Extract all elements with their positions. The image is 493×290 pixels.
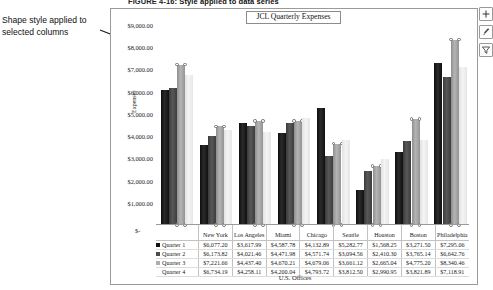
- bar-quarter-1[interactable]: [161, 90, 169, 225]
- bar-quarter-3[interactable]: [333, 144, 341, 225]
- bar-quarter-2[interactable]: [325, 156, 333, 225]
- bar-quarter-1[interactable]: [434, 63, 442, 225]
- selection-handle[interactable]: [183, 63, 187, 67]
- y-axis-tick-label: $3,000.00: [127, 155, 153, 162]
- selection-handle[interactable]: [418, 117, 422, 121]
- table-cell: $6,642.76: [435, 250, 469, 259]
- bar-quarter-3[interactable]: [255, 121, 263, 225]
- figure-caption: FIGURE 4-16: Style applied to data serie…: [128, 0, 358, 7]
- table-cell: $5,282.77: [334, 241, 368, 250]
- chart-filters-button[interactable]: [479, 43, 493, 57]
- table-row-header: Quarter 2: [156, 250, 199, 259]
- bar-quarter-1[interactable]: [200, 145, 208, 225]
- table-column-header: Seattle: [334, 225, 368, 241]
- table-cell: $6,077.20: [199, 241, 233, 250]
- table-cell: $7,295.06: [435, 241, 469, 250]
- selection-handle[interactable]: [222, 125, 226, 129]
- bar-quarter-2[interactable]: [247, 126, 255, 225]
- chart-elements-button[interactable]: [479, 7, 493, 21]
- selection-handle[interactable]: [261, 119, 265, 123]
- table-column-header: Boston: [401, 225, 435, 241]
- selection-handle[interactable]: [457, 38, 461, 42]
- bar-quarter-4[interactable]: [459, 67, 467, 225]
- bar-group: [313, 25, 352, 225]
- table-header-row: New YorkLos AngelesMiamiChicagoSeattleHo…: [156, 225, 469, 241]
- table-row: Quarter 1$6,077.20$3,617.99$4,587.78$4,1…: [156, 241, 469, 250]
- table-cell: $2,665.04: [368, 259, 402, 268]
- legend-swatch: [156, 261, 160, 265]
- bar-quarter-2[interactable]: [208, 136, 216, 225]
- table-cell: $4,587.78: [266, 241, 300, 250]
- bar-quarter-2[interactable]: [169, 88, 177, 225]
- table-cell: $4,775.20: [401, 259, 435, 268]
- bar-quarter-4[interactable]: [263, 132, 271, 225]
- bar-quarter-2[interactable]: [403, 141, 411, 225]
- table-cell: $4,471.98: [266, 250, 300, 259]
- table-cell: $4,571.74: [300, 250, 334, 259]
- y-axis-tick-label: $8,000.00: [127, 44, 153, 51]
- chart-data-table: New YorkLos AngelesMiamiChicagoSeattleHo…: [156, 225, 469, 273]
- table-column-header: Philadelphia: [435, 225, 469, 241]
- bar-quarter-3[interactable]: [177, 65, 185, 225]
- bar-quarter-3[interactable]: [451, 40, 459, 225]
- bar-group: [352, 25, 391, 225]
- bar-quarter-3[interactable]: [373, 166, 381, 225]
- bar-quarter-1[interactable]: [278, 133, 286, 225]
- y-axis-tick-label: $7,000.00: [127, 66, 153, 73]
- table-cell: $4,679.06: [300, 259, 334, 268]
- bar-quarter-3[interactable]: [412, 119, 420, 225]
- y-axis-tick-label: $9,000.00: [127, 22, 153, 29]
- chart-styles-button[interactable]: [479, 25, 493, 39]
- table-cell: $2,410.30: [368, 250, 402, 259]
- bar-quarter-3[interactable]: [216, 126, 224, 225]
- table-column-header: Miami: [266, 225, 300, 241]
- brush-icon: [481, 27, 491, 37]
- plot-area[interactable]: $9,000.00$8,000.00$7,000.00$6,000.00$5,0…: [156, 25, 469, 225]
- table-corner-cell: [156, 225, 199, 241]
- chart-side-buttons[interactable]: [479, 7, 492, 61]
- y-axis-tick-label: $4,000.00: [127, 133, 153, 140]
- bar-quarter-2[interactable]: [364, 171, 372, 225]
- selection-handle[interactable]: [214, 125, 218, 129]
- y-axis-tick-label: $6,000.00: [127, 88, 153, 95]
- callout-label: Shape style applied to selected columns: [2, 14, 98, 38]
- table-cell: $3,094.56: [334, 250, 368, 259]
- x-axis-title: U.S. Offices: [111, 274, 479, 281]
- table-cell: $3,271.50: [401, 241, 435, 250]
- table-cell: $4,021.46: [232, 250, 266, 259]
- table-row-header: Quarter 3: [156, 259, 199, 268]
- bar-quarter-1[interactable]: [239, 123, 247, 225]
- y-axis-zero-label: $-: [135, 227, 140, 234]
- selection-handle[interactable]: [253, 119, 257, 123]
- bar-quarter-4[interactable]: [342, 140, 350, 225]
- selection-handle[interactable]: [371, 164, 375, 168]
- bar-quarter-3[interactable]: [294, 121, 302, 225]
- legend-swatch: [156, 252, 160, 256]
- bar-group: [430, 25, 469, 225]
- bar-quarter-2[interactable]: [443, 77, 451, 225]
- table-cell: $4,132.89: [300, 241, 334, 250]
- y-axis-tick-label: $2,000.00: [127, 177, 153, 184]
- y-axis-tick-label: $1,000.00: [127, 199, 153, 206]
- bar-quarter-2[interactable]: [286, 123, 294, 225]
- bar-quarter-1[interactable]: [395, 152, 403, 225]
- bar-quarter-4[interactable]: [224, 130, 232, 225]
- selection-handle[interactable]: [292, 119, 296, 123]
- table-cell: $6,173.82: [199, 250, 233, 259]
- bar-quarter-4[interactable]: [185, 75, 193, 225]
- bar-group: [391, 25, 430, 225]
- bar-quarter-1[interactable]: [317, 108, 325, 225]
- bar-quarter-1[interactable]: [356, 190, 364, 225]
- plus-icon: [481, 9, 491, 19]
- selection-handle[interactable]: [175, 63, 179, 67]
- bar-quarter-4[interactable]: [302, 118, 310, 225]
- chart-title[interactable]: JCL Quarterly Expenses: [246, 11, 341, 24]
- table-column-header: Houston: [368, 225, 402, 241]
- bar-group: [156, 25, 195, 225]
- bar-group: [273, 25, 312, 225]
- bar-group: [234, 25, 273, 225]
- bar-quarter-4[interactable]: [420, 140, 428, 225]
- chart-container[interactable]: JCL Quarterly Expenses Expenses $- $9,00…: [110, 8, 478, 285]
- table-cell: $8,340.46: [435, 259, 469, 268]
- bar-quarter-4[interactable]: [381, 159, 389, 225]
